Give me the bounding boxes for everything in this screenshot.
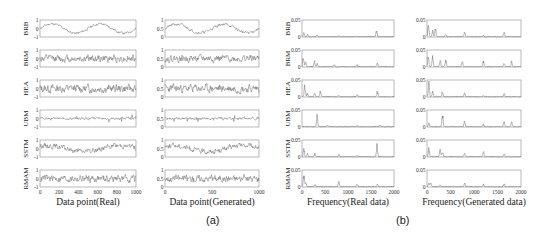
x-tick-label: 500 (321, 189, 330, 195)
series-line-sstm (302, 143, 394, 157)
axes-frame (302, 170, 394, 187)
x-tick-label: 400 (74, 189, 83, 195)
axes-frame (302, 110, 394, 127)
subplot-a-generated-rmam: 00.5105001000Data point(Generated) (157, 167, 265, 208)
axes-frame (302, 80, 394, 97)
series-line-sstm (165, 143, 259, 155)
series-line-brb (40, 23, 136, 34)
y-tick-label: 0 (36, 26, 39, 32)
series-line-rmam (302, 176, 394, 187)
y-tick-label: 1 (36, 107, 39, 113)
subplot-b-real-hea: HEA00.05 (284, 77, 394, 100)
row-label-hea: HEA (22, 81, 30, 95)
row-label-rmam: RMAM (22, 167, 30, 190)
series-line-ubm (165, 116, 259, 122)
y-tick-label: 0 (298, 124, 301, 130)
x-tick-label: 1000 (131, 189, 142, 195)
subplot-a-real-brb: BRB-101 (22, 17, 136, 40)
y-tick-label: 0.05 (291, 167, 301, 173)
row-label-brm: BRM (22, 50, 30, 66)
figure: (a) (b) BRB-101BRM-101HEA-101UBM-101SSTM… (0, 0, 541, 238)
series-line-hea (165, 83, 259, 94)
series-line-rmam (165, 174, 259, 182)
y-tick-label: 0.5 (157, 26, 164, 32)
y-tick-label: 0.5 (157, 146, 164, 152)
series-line-ubm (427, 116, 521, 127)
subplot-b-real-ubm: UBM00.05 (284, 107, 394, 130)
y-tick-label: 0.5 (157, 116, 164, 122)
subplot-column-a-real: BRB-101BRM-101HEA-101UBM-101SSTM-101RMAM… (22, 17, 142, 208)
y-tick-label: 0 (36, 176, 39, 182)
x-tick-label: 200 (55, 189, 64, 195)
y-tick-label: -1 (34, 154, 39, 160)
y-tick-label: 0.05 (416, 17, 426, 23)
panel-label-a: (a) (206, 214, 219, 226)
axes-frame (40, 80, 136, 97)
series-line-brm (427, 56, 521, 68)
y-tick-label: -1 (34, 124, 39, 130)
y-tick-label: 0 (161, 34, 164, 40)
subplot-b-real-rmam: RMAM00.050500100015002000Frequency(Real … (284, 167, 400, 208)
subplot-b-real-brm: BRM00.05 (284, 47, 394, 70)
axes-frame (40, 20, 136, 37)
x-tick-label: 1500 (366, 189, 377, 195)
y-tick-label: 0 (161, 154, 164, 160)
series-line-brm (302, 58, 394, 67)
series-line-brb (427, 25, 521, 37)
row-label-hea: HEA (284, 81, 292, 95)
row-label-brb: BRB (22, 21, 30, 35)
x-tick-label: 500 (446, 189, 455, 195)
subplot-a-real-rmam: RMAM-10102004006008001000Data point(Real… (22, 167, 142, 208)
x-tick-label: 0 (301, 189, 304, 195)
y-tick-label: 0.05 (291, 107, 301, 113)
subplot-a-real-brm: BRM-101 (22, 47, 136, 70)
series-line-brm (40, 55, 136, 64)
x-tick-label: 1500 (492, 189, 503, 195)
axes-frame (165, 140, 259, 157)
y-tick-label: 0.05 (416, 47, 426, 53)
y-tick-label: 0 (423, 64, 426, 70)
y-tick-label: 0 (298, 94, 301, 100)
series-line-hea (302, 85, 394, 97)
subplot-b-real-sstm: SSTM00.05 (284, 137, 394, 160)
axes-frame (302, 20, 394, 37)
y-tick-label: 0 (298, 34, 301, 40)
subplots-container: BRB-101BRM-101HEA-101UBM-101SSTM-101RMAM… (22, 17, 527, 208)
y-tick-label: 1 (161, 47, 164, 53)
y-tick-label: 0 (36, 116, 39, 122)
x-tick-label: 0 (39, 189, 42, 195)
y-tick-label: 0.05 (416, 107, 426, 113)
subplot-a-generated-brb: 00.51 (157, 17, 259, 40)
subplot-a-real-hea: HEA-101 (22, 77, 136, 100)
axes-frame (427, 80, 521, 97)
subplot-b-real-brb: BRB00.05 (284, 17, 394, 40)
x-tick-label: 0 (426, 189, 429, 195)
x-axis-label: Data point(Real) (56, 197, 120, 208)
y-tick-label: 0.5 (157, 86, 164, 92)
y-tick-label: 0.05 (291, 47, 301, 53)
y-tick-label: 0 (423, 124, 426, 130)
y-tick-label: 1 (161, 167, 164, 173)
x-axis-label: Frequency(Real data) (307, 197, 389, 208)
series-line-rmam (427, 183, 521, 187)
y-tick-label: 1 (161, 77, 164, 83)
y-tick-label: 0 (423, 34, 426, 40)
y-tick-label: 0 (423, 94, 426, 100)
y-tick-label: 1 (161, 107, 164, 113)
series-line-ubm (302, 114, 394, 127)
y-tick-label: 0.05 (416, 77, 426, 83)
y-tick-label: 0 (36, 86, 39, 92)
subplot-b-generated-hea: 00.05 (416, 77, 521, 100)
y-tick-label: 0.5 (157, 56, 164, 62)
x-tick-label: 1000 (343, 189, 354, 195)
series-line-hea (427, 81, 521, 97)
y-tick-label: 1 (36, 77, 39, 83)
axes-frame (302, 50, 394, 67)
y-tick-label: 0 (36, 56, 39, 62)
y-tick-label: 0.05 (291, 17, 301, 23)
subplot-column-a-generated: 00.5100.5100.5100.5100.5100.5105001000Da… (157, 17, 265, 208)
y-tick-label: 0.5 (157, 176, 164, 182)
y-tick-label: 0.05 (416, 137, 426, 143)
y-tick-label: -1 (34, 94, 39, 100)
y-tick-label: 0 (36, 146, 39, 152)
